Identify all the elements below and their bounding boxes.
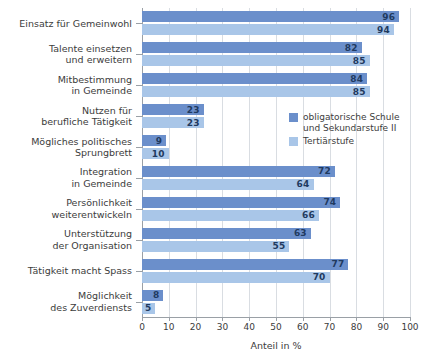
x-axis-tick [410, 317, 411, 321]
bar-value-label: 82 [345, 43, 358, 53]
x-axis-tick-label: 70 [324, 322, 335, 332]
bar-value-label: 66 [302, 210, 315, 220]
x-axis-tick [356, 317, 357, 321]
x-axis-tick [196, 317, 197, 321]
bar [142, 135, 166, 146]
x-axis-tick [169, 317, 170, 321]
bar-group: 9694 [142, 8, 410, 39]
x-axis-tick [276, 317, 277, 321]
bar-chart: Einsatz für GemeinwohlTalente einsetzen … [0, 0, 425, 361]
bar [142, 197, 340, 208]
category-label: Unterstützung der Organisation [53, 228, 133, 251]
bar [142, 42, 362, 53]
bar-group: 85 [142, 286, 410, 317]
bar-row: 84 [142, 73, 410, 84]
x-axis-tick-label: 80 [351, 322, 362, 332]
bar [142, 179, 314, 190]
category-axis-labels: Einsatz für GemeinwohlTalente einsetzen … [0, 8, 138, 317]
category-label: Einsatz für Gemeinwohl [19, 18, 132, 30]
bar-row: 96 [142, 11, 410, 22]
x-axis-tick-label: 90 [377, 322, 388, 332]
bar-group: 8285 [142, 39, 410, 70]
legend-item[interactable]: obligatorische Schule und Sekundarstufe … [289, 112, 421, 133]
legend-item[interactable]: Tertiärstufe [289, 136, 421, 147]
x-axis-tick-labels: 0102030405060708090100 [142, 322, 410, 336]
bar [142, 11, 399, 22]
bar-value-label: 85 [353, 56, 366, 66]
x-axis-tick [383, 317, 384, 321]
bar-group: 7264 [142, 163, 410, 194]
gridline [410, 8, 411, 317]
bar-row: 55 [142, 241, 410, 252]
x-axis-tick [142, 317, 143, 321]
bar-value-label: 55 [272, 241, 285, 251]
bar-group: 6355 [142, 224, 410, 255]
bar-value-label: 77 [331, 259, 344, 269]
category-label: Tätigkeit macht Spass [28, 265, 132, 277]
category-label: Mitbestimmung in Gemeinde [58, 74, 132, 97]
bar-rows: 9694828584852323910726474666355777085 [142, 8, 410, 317]
bar-value-label: 23 [187, 105, 200, 115]
bar-value-label: 9 [156, 136, 162, 146]
bar-row: 82 [142, 42, 410, 53]
bar-row: 70 [142, 272, 410, 283]
bar-row: 63 [142, 228, 410, 239]
bar [142, 272, 330, 283]
bar [142, 210, 319, 221]
category-label: Möglichkeit des Zuverdiensts [50, 290, 132, 313]
bar-value-label: 94 [377, 25, 390, 35]
x-axis-tick-label: 100 [401, 322, 418, 332]
bar [142, 55, 370, 66]
legend-swatch [289, 137, 298, 146]
bar-group: 7770 [142, 255, 410, 286]
x-axis-tick [222, 317, 223, 321]
bar-row: 74 [142, 197, 410, 208]
legend-label: obligatorische Schule und Sekundarstufe … [303, 112, 400, 133]
bar-row: 5 [142, 303, 410, 314]
bar-value-label: 72 [318, 166, 331, 176]
bar-row: 66 [142, 210, 410, 221]
x-axis-tick-label: 20 [190, 322, 201, 332]
category-label: Nutzen für berufliche Tätigkeit [41, 105, 132, 128]
bar-value-label: 10 [152, 149, 165, 159]
bar-value-label: 84 [350, 74, 363, 84]
bar [142, 259, 348, 270]
bar-row: 64 [142, 179, 410, 190]
category-label: Mögliches politisches Sprungbrett [31, 136, 132, 159]
x-axis-tick [303, 317, 304, 321]
bar-value-label: 23 [187, 118, 200, 128]
x-axis-tick-label: 10 [163, 322, 174, 332]
bar-row: 85 [142, 55, 410, 66]
x-axis-tick [330, 317, 331, 321]
x-axis-tick-label: 30 [217, 322, 228, 332]
bar [142, 24, 394, 35]
bar-value-label: 8 [153, 290, 159, 300]
bar [142, 86, 370, 97]
bar-group: 8485 [142, 70, 410, 101]
bar [142, 73, 367, 84]
bar-value-label: 63 [294, 228, 307, 238]
bar-group: 7466 [142, 193, 410, 224]
x-axis-tick-label: 50 [270, 322, 281, 332]
bar-value-label: 64 [297, 179, 310, 189]
category-label: Integration in Gemeinde [71, 166, 132, 189]
legend: obligatorische Schule und Sekundarstufe … [289, 112, 421, 150]
bar-row: 72 [142, 166, 410, 177]
bar-value-label: 85 [353, 87, 366, 97]
legend-label: Tertiärstufe [303, 136, 354, 147]
category-label: Talente einsetzen und erweitern [49, 43, 132, 66]
x-axis-title: Anteil in % [142, 340, 410, 351]
bar-value-label: 96 [382, 12, 395, 22]
legend-swatch [289, 113, 298, 122]
x-axis-tick-label: 40 [243, 322, 254, 332]
bar-value-label: 5 [145, 303, 151, 313]
bar [142, 241, 289, 252]
bar-row: 8 [142, 290, 410, 301]
plot-area: 9694828584852323910726474666355777085 [142, 8, 410, 317]
bar [142, 228, 311, 239]
category-label: Persönlichkeit weiterentwickeln [52, 197, 132, 220]
bar-value-label: 70 [313, 272, 326, 282]
x-axis-tick-label: 60 [297, 322, 308, 332]
x-axis-tick [249, 317, 250, 321]
bar-row: 77 [142, 259, 410, 270]
